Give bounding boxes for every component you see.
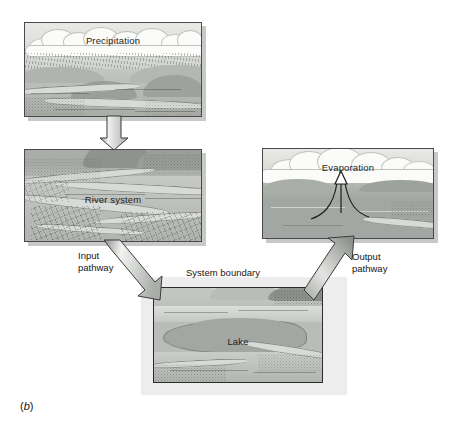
arrow-shape — [304, 236, 354, 300]
input-pathway-line2: pathway — [78, 262, 113, 274]
farmland-grid — [31, 206, 101, 240]
vegetation-texture — [25, 97, 85, 117]
vegetation-texture — [145, 101, 202, 117]
vegetation-texture — [258, 354, 322, 372]
panel-lake: Lake — [153, 287, 323, 383]
arrow-shape — [100, 116, 128, 150]
system-boundary-label: System boundary — [186, 267, 260, 279]
figure-container: Precipitation — [0, 0, 460, 434]
vapour-stream-right — [345, 183, 369, 217]
panel-river-system: River system — [24, 149, 202, 242]
terrain-streak — [31, 93, 89, 94]
lake-water-body — [192, 318, 288, 334]
vegetation-texture — [25, 158, 101, 182]
panel-label-lake: Lake — [154, 336, 322, 347]
terrain-streak — [254, 372, 316, 373]
arrow-precipitation-to-river — [100, 116, 136, 152]
panel-label-precipitation: Precipitation — [25, 35, 201, 46]
input-pathway-line1: Input — [78, 250, 113, 262]
arrow-label-input-pathway: Input pathway — [78, 250, 113, 274]
output-pathway-line1: Output — [352, 251, 387, 263]
arrow-label-output-pathway: Output pathway — [352, 251, 387, 275]
panel-evaporation: Evaporation — [262, 148, 434, 239]
evaporation-vapour-arrows — [309, 169, 373, 221]
panel-label-river-system: River system — [25, 194, 201, 205]
vapour-stream-left — [311, 183, 337, 219]
terrain-streak — [238, 310, 308, 311]
terrain-streak — [115, 89, 181, 90]
terrain-streak — [164, 312, 228, 313]
output-pathway-line2: pathway — [352, 263, 387, 275]
panel-label-evaporation: Evaporation — [263, 162, 433, 173]
vegetation-texture — [391, 201, 434, 217]
caption-close-paren: ) — [30, 400, 34, 412]
figure-caption: (b) — [20, 400, 33, 412]
vegetation-texture — [154, 364, 226, 383]
panel-precipitation: Precipitation — [24, 22, 202, 117]
water-streak — [283, 225, 343, 226]
vegetation-texture — [143, 154, 202, 176]
